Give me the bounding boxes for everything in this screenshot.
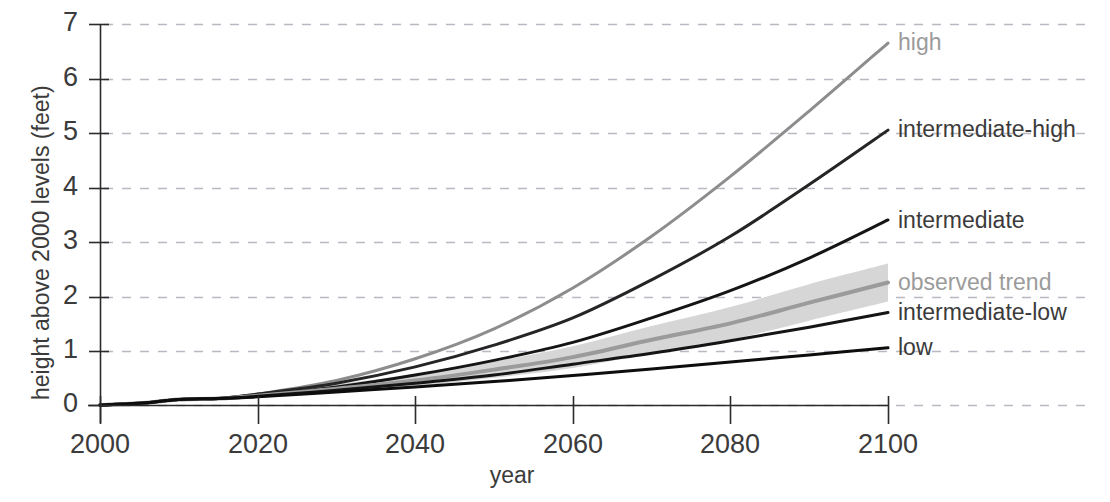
series-line-high — [100, 43, 888, 405]
x-tick-label-2100: 2100 — [828, 429, 948, 460]
series-label-intermediate: intermediate — [898, 209, 1025, 232]
x-tick-label-2060: 2060 — [513, 429, 633, 460]
x-tick-label-2080: 2080 — [670, 429, 790, 460]
sea-level-rise-chart: 76543210 200020202040206020802100 highin… — [0, 0, 1110, 502]
series-label-low: low — [898, 336, 933, 359]
series-label-intermediate-low: intermediate-low — [898, 301, 1067, 324]
y-axis-title: height above 2000 levels (feet) — [28, 85, 55, 400]
x-tick-label-2020: 2020 — [198, 429, 318, 460]
y-tick-label-7: 7 — [38, 7, 78, 38]
series-label-observed-trend: observed trend — [898, 271, 1051, 294]
series-lines — [100, 43, 888, 405]
x-axis-title: year — [452, 462, 572, 489]
chart-plot-area — [0, 0, 1110, 502]
series-label-high: high — [898, 31, 941, 54]
x-tick-label-2040: 2040 — [355, 429, 475, 460]
series-label-intermediate-high: intermediate-high — [898, 118, 1076, 141]
x-tick-label-2000: 2000 — [40, 429, 160, 460]
